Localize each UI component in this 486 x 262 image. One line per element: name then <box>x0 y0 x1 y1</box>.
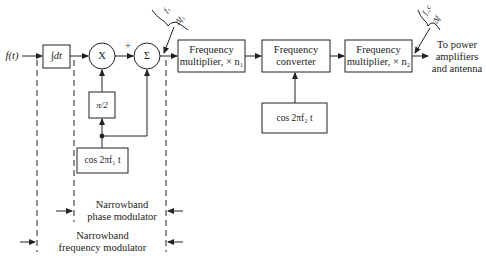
summer-label: Σ <box>134 50 160 62</box>
block-diagram <box>0 0 486 262</box>
integrator-label: ∫dt <box>43 50 70 62</box>
multiplier-label: X <box>89 50 115 62</box>
oscillator2-label: cos 2πf₂ t <box>262 112 327 124</box>
phase-modulator-label: Narrowband phase modulator <box>80 199 164 223</box>
freq-conv-label: Frequency converter <box>262 44 330 68</box>
plus-sign: + <box>122 40 134 52</box>
phase-shift-label: π/2 <box>89 99 115 111</box>
frequency-modulator-label: Narrowband frequency modulator <box>40 230 165 254</box>
input-label: f(t) <box>2 50 22 62</box>
junction-dot <box>100 134 104 138</box>
output-label: To power amplifiers and antenna <box>428 39 486 75</box>
freq-mult1-label: Frequency multiplier, × n₁ <box>178 44 245 68</box>
freq-mult2-label: Frequency multiplier, × n₂ <box>345 44 412 68</box>
oscillator1-label: cos 2πf₁ t <box>77 154 128 166</box>
